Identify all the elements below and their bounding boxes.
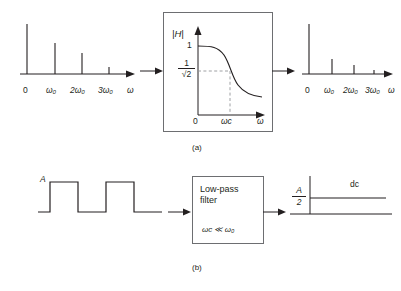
caption-a: (a) — [192, 143, 202, 152]
amplitude-label-A: A — [40, 175, 46, 184]
cutoff-gain-fraction: 1 √2 — [178, 59, 195, 78]
filter-response-box: |H| 1 1 √2 0 ωc ω — [163, 12, 273, 132]
filter-block-title: Low-pass filter — [200, 184, 239, 206]
gain-unity-label: 1 — [187, 41, 192, 50]
filter-origin-label: 0 — [193, 117, 198, 126]
filter-block-condition: ωc ≪ ω₀ — [202, 225, 234, 234]
filter-block-title-line1: Low-pass — [200, 184, 239, 194]
output-tick-w0: ω₀ — [324, 86, 334, 95]
output-spectrum-chart: 0 ω₀ 2ω₀ 3ω₀ ω — [296, 18, 401, 84]
figure-root: 0 ω₀ 2ω₀ 3ω₀ ω |H| 1 — [0, 0, 401, 291]
output-tick-0: 0 — [305, 86, 310, 95]
caption-b: (b) — [192, 263, 202, 272]
arrow-block-to-output — [263, 206, 287, 218]
input-axis-omega-label: ω — [127, 86, 134, 95]
input-spectrum-svg — [14, 18, 144, 84]
square-wave-trace — [38, 182, 162, 212]
input-tick-w0: ω₀ — [46, 86, 56, 95]
square-wave-chart: A — [36, 172, 188, 218]
output-axis-omega-label: ω — [388, 86, 395, 95]
output-tick-2w0: 2ω₀ — [343, 86, 358, 95]
dc-level-fraction: A 2 — [292, 186, 306, 206]
cutoff-gain-numerator: 1 — [178, 59, 195, 68]
dc-output-chart: A 2 dc — [288, 172, 400, 220]
filter-block-title-line2: filter — [200, 195, 217, 205]
input-spectrum-chart: 0 ω₀ 2ω₀ 3ω₀ ω — [14, 18, 144, 84]
cutoff-frequency-label: ωc — [221, 117, 232, 126]
arrow-filter-to-output — [272, 65, 296, 77]
output-spectrum-svg — [296, 18, 401, 84]
dc-label: dc — [350, 180, 359, 189]
arrow-input-to-filter — [140, 65, 164, 77]
output-tick-3w0: 3ω₀ — [365, 86, 380, 95]
arrow-wave-to-block — [168, 206, 192, 218]
input-tick-2w0: 2ω₀ — [70, 86, 85, 95]
square-wave-svg — [36, 172, 188, 218]
filter-axis-omega-label: ω — [257, 117, 264, 126]
magnitude-axis-label: |H| — [172, 29, 184, 39]
cutoff-gain-denominator: √2 — [178, 70, 195, 79]
input-tick-0: 0 — [23, 86, 28, 95]
dc-level-denominator: 2 — [292, 198, 306, 207]
low-pass-filter-block[interactable]: Low-pass filter ωc ≪ ω₀ — [192, 176, 264, 244]
dc-level-numerator: A — [292, 186, 306, 195]
input-tick-3w0: 3ω₀ — [98, 86, 113, 95]
